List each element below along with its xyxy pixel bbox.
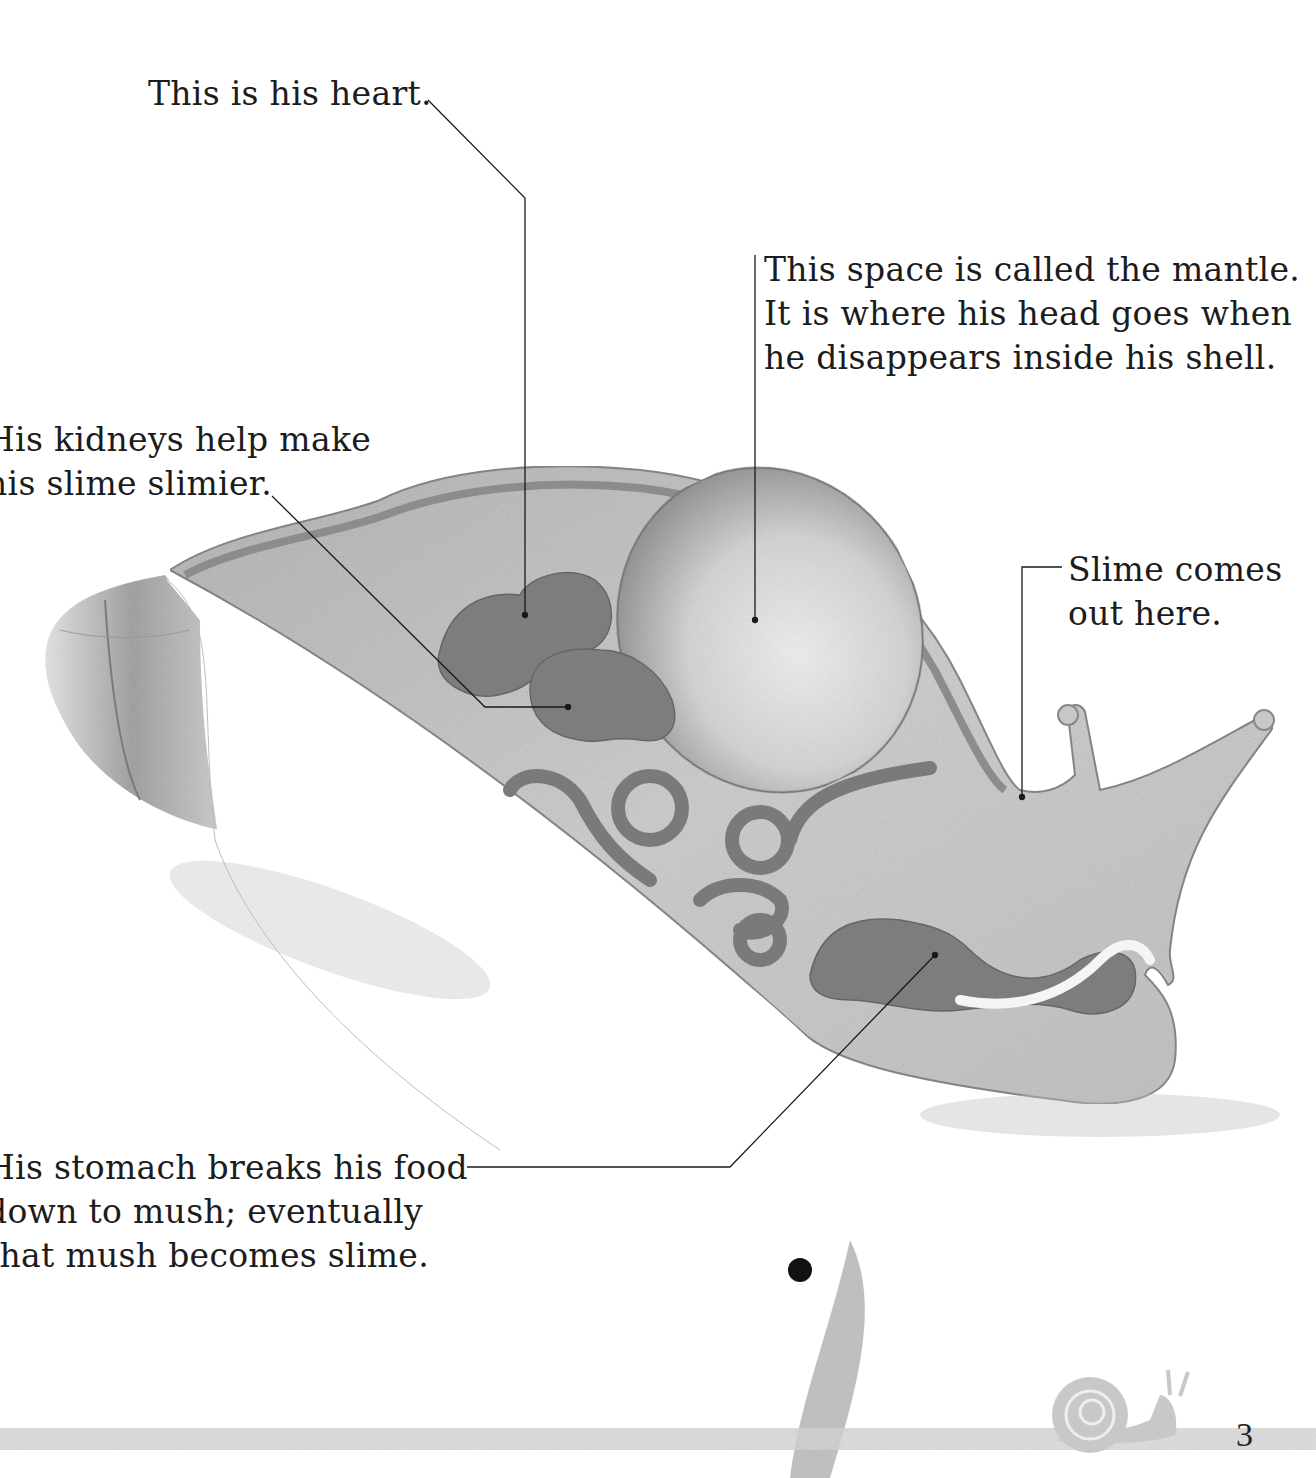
mantle-label-line: he disappears inside his shell. xyxy=(764,336,1300,380)
kidneys-label-line: his slime slimier. xyxy=(0,462,371,506)
stomach-label: His stomach breaks his food down to mush… xyxy=(0,1146,468,1278)
heart-label: This is his heart. xyxy=(148,72,432,116)
mantle-label: This space is called the mantle. It is w… xyxy=(764,248,1300,380)
stomach-label-line: His stomach breaks his food xyxy=(0,1146,468,1190)
shell-apex xyxy=(45,575,220,830)
stomach-label-line: down to mush; eventually xyxy=(0,1190,468,1234)
eye-stalk-tip-right xyxy=(1254,710,1274,730)
kidneys-label: His kidneys help make his slime slimier. xyxy=(0,418,371,506)
kidneys-label-line: His kidneys help make xyxy=(0,418,371,462)
mantle-label-line: It is where his head goes when xyxy=(764,292,1300,336)
eye-stalk-tip-left xyxy=(1058,705,1078,725)
slime-leader xyxy=(1022,567,1062,797)
heart-label-line: This is his heart. xyxy=(148,72,432,116)
slime-exit-label: Slime comes out here. xyxy=(1068,548,1282,636)
slime-exit-label-line: Slime comes xyxy=(1068,548,1282,592)
stomach-label-line: that mush becomes slime. xyxy=(0,1234,468,1278)
slime-exit-label-line: out here. xyxy=(1068,592,1282,636)
page-number: 3 xyxy=(1236,1416,1253,1454)
mantle-label-line: This space is called the mantle. xyxy=(764,248,1300,292)
